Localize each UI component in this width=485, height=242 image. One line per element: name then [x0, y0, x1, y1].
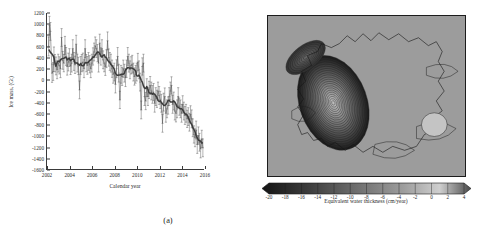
- x-tick-label: 2014: [177, 172, 187, 178]
- x-tick-mark: [137, 166, 138, 169]
- colorbar-tick-label: -14: [314, 194, 321, 200]
- y-tick-mark: [47, 46, 50, 47]
- y-tick-mark: [47, 102, 50, 103]
- y-tick-mark: [47, 170, 50, 171]
- error-bars: [48, 16, 204, 158]
- y-tick-label: -400: [34, 100, 44, 106]
- y-tick-mark: [47, 113, 50, 114]
- antarctica-contour-map: [267, 15, 466, 177]
- y-tick-label: 400: [36, 55, 44, 61]
- plot-area-a: 120010008006004002000-200-400-600-800-10…: [46, 13, 204, 170]
- x-tick-mark: [205, 166, 206, 169]
- y-tick-mark: [47, 80, 50, 81]
- y-tick-mark: [47, 24, 50, 25]
- y-tick-mark: [47, 13, 50, 14]
- y-tick-label: -600: [34, 111, 44, 117]
- x-tick-mark: [47, 166, 48, 169]
- x-tick-mark: [160, 166, 161, 169]
- colorbar-label: Equivalent water thickness (cm/year): [324, 198, 407, 204]
- y-tick-label: 1000: [34, 21, 44, 27]
- y-tick-mark: [47, 69, 50, 70]
- x-tick-label: 2004: [64, 172, 74, 178]
- x-tick-mark: [115, 166, 116, 169]
- x-tick-label: 2006: [87, 172, 97, 178]
- y-tick-label: -800: [34, 122, 44, 128]
- colorbar-tick-label: 2: [446, 194, 449, 200]
- x-tick-mark: [70, 166, 71, 169]
- contour-map-svg: [268, 16, 465, 176]
- x-tick-label: 2012: [155, 172, 165, 178]
- y-tick-mark: [47, 35, 50, 36]
- y-tick-label: 600: [36, 44, 44, 50]
- x-axis-label-a: Calendar year: [109, 183, 140, 189]
- x-tick-label: 2008: [110, 172, 120, 178]
- timeseries-svg: [47, 13, 204, 169]
- panel-b-map: -20-18-16-14-12-10-8-6-4-2024 Equivalent…: [245, 0, 485, 242]
- colorbar-tick-label: 0: [430, 194, 433, 200]
- y-tick-mark: [47, 125, 50, 126]
- y-tick-mark: [47, 91, 50, 92]
- panel-a-timeseries: Ice mass, (Gt) 120010008006004002000-200…: [0, 0, 245, 242]
- colorbar-tick-label: 4: [463, 194, 466, 200]
- colorbar-tick-label: -18: [282, 194, 289, 200]
- y-tick-label: 0: [41, 77, 44, 83]
- x-tick-label: 2002: [42, 172, 52, 178]
- y-tick-mark: [47, 158, 50, 159]
- y-tick-label: 800: [36, 32, 44, 38]
- colorbar-tick-label: -16: [298, 194, 305, 200]
- x-tick-label: 2016: [200, 172, 210, 178]
- y-tick-label: -1000: [32, 133, 44, 139]
- y-tick-label: -200: [34, 89, 44, 95]
- colorbar-svg: [262, 183, 471, 194]
- x-tick-mark: [182, 166, 183, 169]
- panel-caption-a: (a): [163, 216, 172, 225]
- data-polyline: [49, 25, 203, 149]
- y-tick-mark: [47, 57, 50, 58]
- y-tick-mark: [47, 147, 50, 148]
- y-axis-label-a: Ice mass, (Gt): [8, 76, 14, 108]
- y-tick-label: -1400: [32, 156, 44, 162]
- y-tick-label: 1200: [34, 10, 44, 16]
- positive-anomaly-contour: [421, 113, 447, 137]
- y-tick-label: -1200: [32, 145, 44, 151]
- y-tick-mark: [47, 136, 50, 137]
- colorbar: -20-18-16-14-12-10-8-6-4-2024: [262, 183, 471, 194]
- y-tick-label: 200: [36, 66, 44, 72]
- x-tick-mark: [92, 166, 93, 169]
- x-tick-label: 2010: [132, 172, 142, 178]
- colorbar-tick-label: -2: [413, 194, 417, 200]
- figure-container: Ice mass, (Gt) 120010008006004002000-200…: [0, 0, 485, 242]
- colorbar-tick-label: -20: [266, 194, 273, 200]
